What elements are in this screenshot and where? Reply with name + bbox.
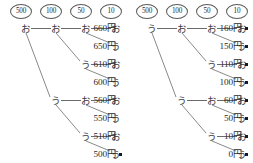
tree-row: おおおお660円: [0, 21, 127, 36]
row-amount: 10円: [208, 129, 242, 144]
tree-row: うおお560円: [0, 93, 127, 108]
row-amount: 50円: [208, 111, 242, 126]
tree-row: うお10円: [126, 129, 253, 144]
row-amount: 510円: [82, 129, 116, 144]
row-amount: 610円: [82, 57, 116, 72]
row-marker-bullet: [245, 45, 248, 48]
tree-row: う100円: [126, 75, 253, 90]
row-amount: 110円: [208, 57, 242, 72]
row-amount: 600円: [82, 75, 116, 90]
row-amount: 60円: [208, 93, 242, 108]
tree-row: うお110円: [126, 57, 253, 72]
tree-row: う600円: [0, 75, 127, 90]
tree-row: う0円: [126, 147, 253, 162]
row-amount: 560円: [82, 93, 116, 108]
denomination-badge-10: 10: [100, 4, 122, 19]
tree-row: う150円: [126, 39, 253, 54]
tree-panel-left: 5001005010おおおお660円う650円うお610円う600円うおお560…: [0, 0, 127, 163]
row-marker-bullet: [245, 63, 248, 66]
tree-row: うお510円: [0, 129, 127, 144]
row-amount: 100円: [208, 75, 242, 90]
row-amount: 650円: [82, 39, 116, 54]
row-amount: 550円: [82, 111, 116, 126]
tree-row: う500円: [0, 147, 127, 162]
row-marker-bullet: [245, 81, 248, 84]
row-amount: 0円: [208, 147, 242, 162]
diagram-canvas: 5001005010おおおお660円う650円うお610円う600円うおお560…: [0, 0, 253, 163]
tree-row: うお610円: [0, 57, 127, 72]
denomination-badge-10: 10: [226, 4, 248, 19]
row-marker-bullet: [119, 153, 122, 156]
denomination-badge-500: 500: [10, 4, 32, 19]
row-marker-bullet: [245, 153, 248, 156]
row-marker-bullet: [245, 135, 248, 138]
row-amount: 160円: [208, 21, 242, 36]
tree-panel-right: 5001005010うおおお160円う150円うお110円う100円うおお60円…: [126, 0, 253, 163]
denomination-badge-100: 100: [166, 4, 188, 19]
row-amount: 500円: [82, 147, 116, 162]
tree-row: うおお60円: [126, 93, 253, 108]
denomination-header: 5001005010: [126, 4, 253, 20]
row-marker-bullet: [245, 99, 248, 102]
tree-row: う50円: [126, 111, 253, 126]
row-marker-bullet: [245, 117, 248, 120]
denomination-badge-50: 50: [70, 4, 92, 19]
denomination-badge-100: 100: [40, 4, 62, 19]
tree-row: う550円: [0, 111, 127, 126]
row-amount: 660円: [82, 21, 116, 36]
tree-row: うおおお160円: [126, 21, 253, 36]
denomination-badge-500: 500: [136, 4, 158, 19]
tree-row: う650円: [0, 39, 127, 54]
denomination-badge-50: 50: [196, 4, 218, 19]
denomination-header: 5001005010: [0, 4, 127, 20]
row-marker-bullet: [245, 27, 248, 30]
row-amount: 150円: [208, 39, 242, 54]
